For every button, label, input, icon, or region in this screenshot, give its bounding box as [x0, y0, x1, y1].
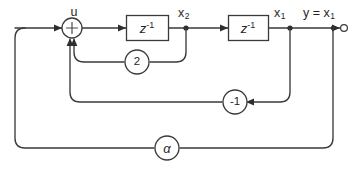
signal-label-u: u [71, 6, 78, 19]
signal-label-x1-subscript: 1 [280, 11, 285, 21]
signal-label-output-base: y = x [303, 6, 330, 20]
unit-delay-block-1-exponent: -1 [146, 20, 154, 30]
signal-label-output-subscript: 1 [330, 11, 335, 21]
signal-label-output: y = x1 [303, 7, 335, 21]
wire-gain-alpha-to-input [15, 28, 154, 148]
arrowhead-into-delay2 [220, 24, 228, 31]
signal-label-x2: x2 [178, 7, 189, 21]
unit-delay-block-2-label: z-1 [241, 21, 256, 35]
wire-output-to-gain-alpha [180, 28, 333, 148]
wire-gain2-to-summer [74, 40, 124, 62]
gain-block-2-label: 2 [134, 56, 140, 68]
gain-block-alpha-label: α [163, 142, 170, 155]
signal-label-x1: x1 [274, 7, 285, 21]
unit-delay-block-1-label: z-1 [140, 21, 155, 35]
unit-delay-block-2-exponent: -1 [247, 20, 255, 30]
diagram-vector-layer [0, 0, 357, 170]
gain-block-minus-1-label: -1 [230, 96, 240, 108]
signal-label-x2-subscript: 2 [184, 11, 189, 21]
wire-gain-minus1-to-summer [70, 40, 222, 102]
block-diagram-canvas: u x2 x1 y = x1 z-1 z-1 2 -1 α [0, 0, 357, 170]
arrowhead-into-summer [54, 24, 62, 31]
output-terminal [341, 25, 348, 32]
arrowhead-into-delay1 [118, 24, 126, 31]
